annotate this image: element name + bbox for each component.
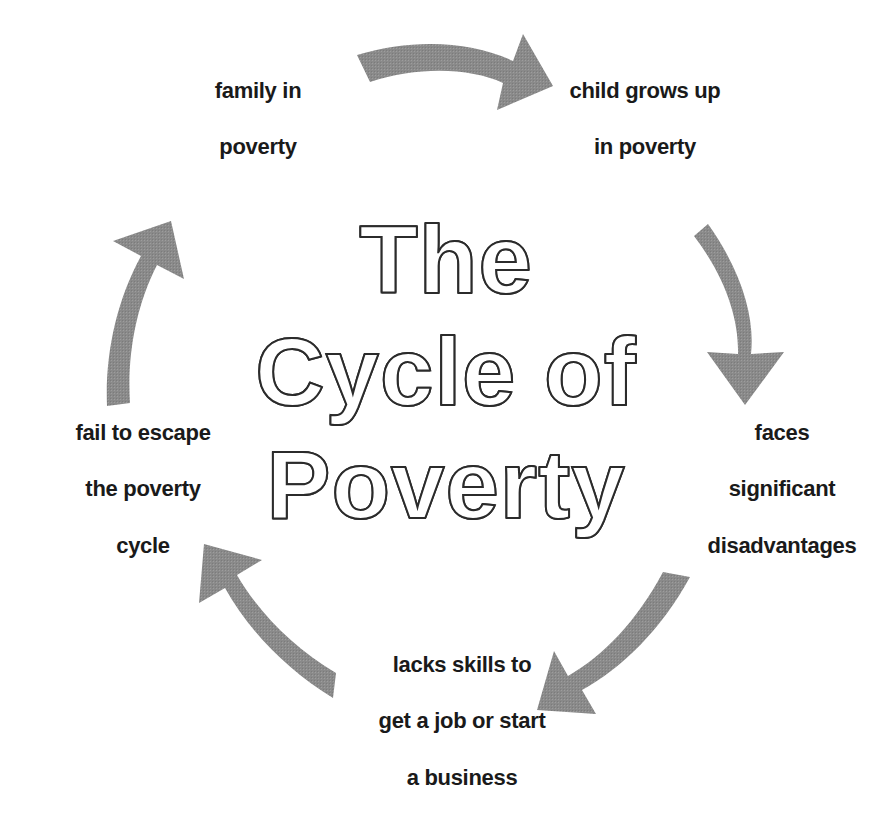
node-label-line: child grows up [569, 77, 720, 105]
node-label-line: cycle [75, 532, 210, 560]
node-label-line: lacks skills to [379, 652, 546, 680]
node-label-line: significant [708, 476, 857, 504]
node-label-line: the poverty [75, 476, 210, 504]
arrow-bottom-left-icon [199, 544, 336, 698]
label-layer: family in poverty child grows up in pove… [0, 0, 893, 825]
node-label-line: a business [379, 764, 546, 792]
arrow-left-icon [107, 221, 184, 406]
node-label-line: family in [215, 77, 302, 105]
node-lacks-skills[interactable]: lacks skills to get a job or start a bus… [379, 623, 546, 820]
cycle-of-poverty-diagram: family in poverty child grows up in pove… [0, 0, 893, 825]
node-label-line: fail to escape [75, 420, 210, 448]
node-family-in-poverty[interactable]: family in poverty [215, 49, 302, 190]
node-faces-significant-disadvantages[interactable]: faces significant disadvantages [708, 391, 857, 588]
title-line-2: Cycle of [255, 316, 636, 428]
node-label-line: disadvantages [708, 532, 857, 560]
page-title: The Cycle of Poverty [255, 204, 636, 541]
arrow-right-icon [694, 224, 784, 405]
node-label-line: in poverty [569, 133, 720, 161]
node-child-grows-up-in-poverty[interactable]: child grows up in poverty [569, 49, 720, 190]
arrow-bottom-right-icon [537, 572, 690, 714]
node-label-line: get a job or start [379, 708, 546, 736]
node-label-line: faces [708, 420, 857, 448]
title-line-3: Poverty [255, 428, 636, 540]
node-fail-to-escape-the-poverty-cycle[interactable]: fail to escape the poverty cycle [75, 391, 210, 588]
arrow-top-icon [357, 34, 553, 110]
title-line-1: The [255, 204, 636, 316]
node-label-line: poverty [215, 133, 302, 161]
